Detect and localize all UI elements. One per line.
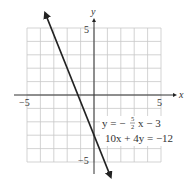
y-tick-max: 5 <box>84 24 89 35</box>
y-tick-min: −5 <box>78 155 89 166</box>
fraction-denominator: 2 <box>131 123 134 130</box>
y-axis-label: y <box>90 6 96 17</box>
x-axis-label: x <box>178 89 184 100</box>
equation-standard-form: 10x + 4y = −12 <box>105 132 173 144</box>
fraction-numerator: 5 <box>131 115 134 122</box>
equation-slope-intercept: y = − <box>102 117 125 129</box>
x-tick-max: 5 <box>157 97 162 108</box>
equation-slope-intercept-suffix: x − 3 <box>138 117 161 129</box>
coordinate-plane: x y −5 5 5 −5 y = − 5 2 x − 3 10x + 4y =… <box>0 0 195 187</box>
x-tick-min: −5 <box>19 97 30 108</box>
